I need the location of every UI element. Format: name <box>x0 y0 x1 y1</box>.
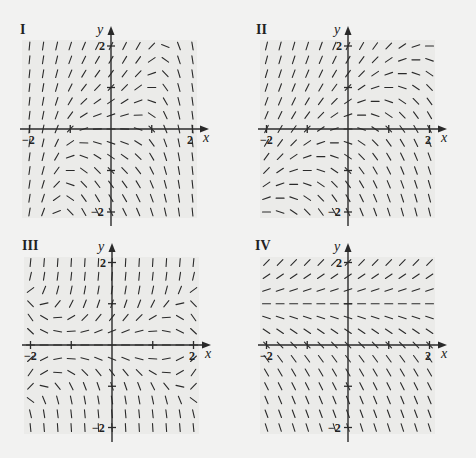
tick-label-y-pos: 2 <box>336 256 342 270</box>
y-axis-label: y <box>96 239 105 254</box>
y-axis-arrow-icon <box>108 26 115 35</box>
slope-field-panel-i: −222−2xy <box>20 22 210 226</box>
tick-label-y-neg: −2 <box>92 421 105 435</box>
tick-label-x-neg: −2 <box>260 349 273 363</box>
tick-label-y-pos: 2 <box>336 39 342 53</box>
x-axis-label: x <box>204 346 212 361</box>
slope-field-panel-ii: −222−2xy <box>258 22 448 226</box>
tick-label-y-neg: −2 <box>328 205 341 219</box>
tick-label-y-pos: 2 <box>100 256 106 270</box>
tick-label-y-neg: −2 <box>91 205 104 219</box>
tick-label-x-pos: 2 <box>425 133 431 147</box>
y-axis-label: y <box>332 22 341 37</box>
x-axis-label: x <box>202 130 210 145</box>
x-axis-label: x <box>440 130 448 145</box>
tick-label-y-pos: 2 <box>99 39 105 53</box>
tick-label-x-pos: 2 <box>187 133 193 147</box>
tick-label-x-neg: −2 <box>24 349 37 363</box>
y-axis-label: y <box>95 22 104 37</box>
y-axis-arrow-icon <box>345 243 352 252</box>
tick-label-y-neg: −2 <box>328 421 341 435</box>
y-axis-arrow-icon <box>109 243 116 252</box>
tick-label-x-neg: −2 <box>260 133 273 147</box>
slope-field-panel-iv: −222−2xy <box>258 239 448 442</box>
y-axis-arrow-icon <box>345 26 352 35</box>
slope-field-plots: −222−2xy−222−2xy−222−2xy−222−2xy <box>0 0 476 458</box>
slope-field-panel-iii: −222−2xy <box>22 239 212 442</box>
tick-label-x-neg: −2 <box>22 133 35 147</box>
y-axis-label: y <box>332 239 341 254</box>
tick-label-x-pos: 2 <box>189 349 195 363</box>
tick-label-x-pos: 2 <box>425 349 431 363</box>
x-axis-label: x <box>440 346 448 361</box>
